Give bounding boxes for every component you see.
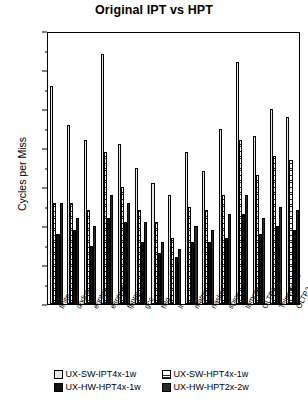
legend-item-1: UX-SW-HPT4x-1w — [162, 369, 248, 380]
legend-swatch-icon — [54, 370, 63, 379]
legend-label: UX-HW-HPT2x-2w — [174, 382, 249, 393]
chart-figure: Original IPT vs HPT Cycles per Miss 0102… — [0, 0, 308, 412]
y-axis: 010203040506070 — [0, 0, 47, 412]
legend-label: UX-SW-IPT4x-1w — [66, 369, 137, 380]
chart-legend: UX-SW-IPT4x-1w UX-SW-HPT4x-1w UX-HW-HPT4… — [54, 368, 264, 394]
bar — [161, 242, 164, 304]
bar — [279, 207, 282, 305]
legend-item-2: UX-HW-HPT4x-1w — [54, 382, 162, 393]
bar — [194, 226, 197, 304]
bar — [127, 203, 130, 304]
bar — [76, 218, 79, 304]
legend-label: UX-HW-HPT4x-1w — [66, 382, 141, 393]
legend-row: UX-SW-IPT4x-1w UX-SW-HPT4x-1w — [54, 368, 264, 381]
bar — [60, 203, 63, 304]
legend-swatch-icon — [162, 383, 171, 392]
bar — [110, 195, 113, 304]
bar — [262, 218, 265, 304]
bar — [211, 230, 214, 304]
bar — [144, 222, 147, 304]
legend-swatch-icon — [54, 383, 63, 392]
legend-row: UX-HW-HPT4x-1w UX-HW-HPT2x-2w — [54, 381, 264, 394]
bars-layer — [48, 33, 299, 304]
legend-item-0: UX-SW-IPT4x-1w — [54, 369, 162, 380]
bar — [93, 226, 96, 304]
bar — [228, 214, 231, 304]
bar — [178, 249, 181, 304]
legend-swatch-icon — [162, 370, 171, 379]
plot-area — [47, 32, 300, 305]
bar — [245, 195, 248, 304]
legend-label: UX-SW-HPT4x-1w — [174, 369, 249, 380]
bar — [296, 210, 299, 304]
legend-item-3: UX-HW-HPT2x-2w — [162, 382, 249, 393]
x-axis-labels: finitedoduceqntottespressofppppgcchiloli… — [47, 306, 300, 364]
